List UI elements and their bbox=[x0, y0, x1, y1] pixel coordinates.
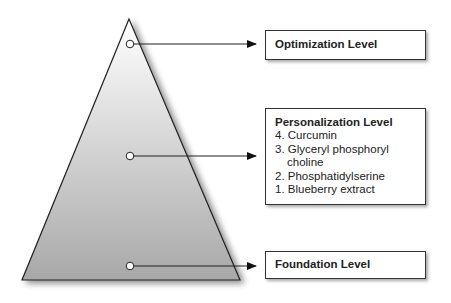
foundation-level-box: Foundation Level bbox=[265, 251, 426, 279]
optimization-level-title: Optimization Level bbox=[275, 38, 425, 51]
pyramid-shape bbox=[22, 19, 240, 280]
personalization-level-box: Personalization Level 4. Curcumin 3. Gly… bbox=[265, 108, 426, 205]
personalization-level-title: Personalization Level bbox=[275, 116, 421, 129]
foundation-level-title: Foundation Level bbox=[275, 258, 425, 271]
node-optimization bbox=[126, 40, 134, 48]
personalization-item: 2. Phosphatidylserine bbox=[275, 170, 421, 183]
personalization-item: 3. Glyceryl phosphoryl choline bbox=[275, 143, 421, 170]
optimization-level-box: Optimization Level bbox=[265, 30, 426, 60]
personalization-item: 1. Blueberry extract bbox=[275, 183, 421, 196]
node-foundation bbox=[126, 262, 134, 270]
personalization-item: 4. Curcumin bbox=[275, 129, 421, 142]
node-personalization bbox=[126, 152, 134, 160]
